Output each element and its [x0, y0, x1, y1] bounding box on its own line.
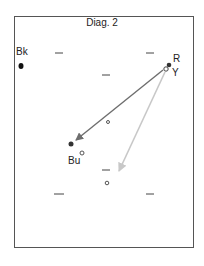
label-r: R [173, 54, 180, 64]
point-bu [69, 142, 74, 147]
point-r [167, 63, 172, 68]
point-center [107, 121, 110, 124]
point-y [164, 67, 168, 71]
point-bk [19, 63, 24, 69]
tick-dashes [54, 53, 154, 194]
label-bk: Bk [16, 47, 28, 57]
point-near-bu [80, 151, 84, 155]
point-lower-center [105, 181, 109, 185]
label-y: Y [172, 68, 179, 78]
diagram-canvas [0, 0, 204, 266]
label-bu: Bu [68, 156, 80, 166]
